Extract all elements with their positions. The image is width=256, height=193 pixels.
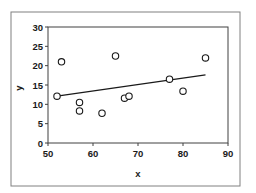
y-tick-label: 10 <box>32 99 43 110</box>
y-axis-title: y <box>13 85 24 91</box>
y-tick-label: 0 <box>38 138 43 149</box>
data-point-marker <box>99 110 105 116</box>
scatter-chart: 051015202530 5060708090 x y <box>0 0 256 193</box>
data-point-marker <box>112 53 118 59</box>
y-tick-label: 25 <box>32 41 43 52</box>
data-point-marker <box>76 108 82 114</box>
x-tick-label: 90 <box>223 148 234 159</box>
x-tick-label: 80 <box>178 148 189 159</box>
data-point-marker <box>76 99 82 105</box>
x-tick-label: 60 <box>88 148 99 159</box>
data-point-marker <box>180 88 186 94</box>
x-tick-label: 70 <box>133 148 144 159</box>
y-tick-label: 30 <box>32 22 43 33</box>
y-tick-label: 20 <box>32 60 43 71</box>
y-tick-label: 15 <box>32 80 43 91</box>
data-point-marker <box>126 93 132 99</box>
data-point-marker <box>58 59 64 65</box>
data-point-marker <box>202 55 208 61</box>
data-point-marker <box>166 76 172 82</box>
data-point-marker <box>54 93 60 99</box>
x-axis-title: x <box>135 168 141 179</box>
x-tick-label: 50 <box>43 148 54 159</box>
y-tick-label: 5 <box>38 118 44 129</box>
